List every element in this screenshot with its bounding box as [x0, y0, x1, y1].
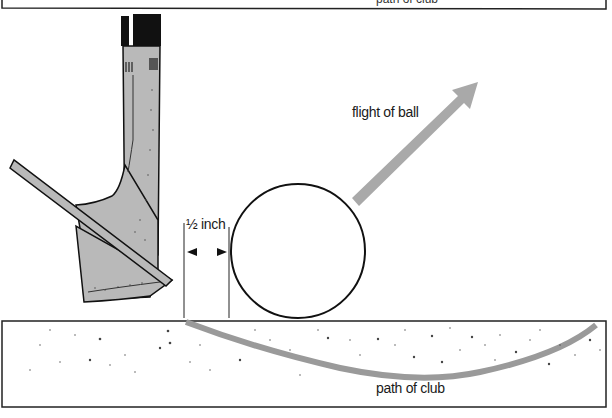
diagram-svg: [0, 0, 612, 418]
club-icon: [10, 14, 172, 302]
golf-ball-icon: [231, 184, 365, 318]
flight-arrow-icon: [352, 82, 478, 206]
bunker-shot-diagram: path of club ½ inch flight of ball path …: [0, 0, 612, 418]
path-of-club-label: path of club: [376, 380, 445, 396]
arrow-left-icon: [187, 248, 197, 256]
sand-box: [2, 321, 606, 407]
distance-label: ½ inch: [186, 216, 225, 232]
flight-of-ball-label: flight of ball: [352, 104, 419, 120]
top-panel-label: path of club: [376, 0, 438, 6]
arrow-right-icon: [217, 248, 227, 256]
distance-marker: [184, 223, 229, 318]
top-panel-box: [2, 0, 606, 9]
